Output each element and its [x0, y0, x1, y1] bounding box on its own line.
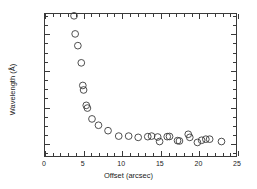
x-tick-label: 0 [42, 160, 46, 168]
y-axis-tick-labels: 5798580058025804 [0, 0, 257, 189]
x-tick-label: 25 [233, 160, 241, 168]
x-tick-label: 15 [156, 160, 164, 168]
x-axis-title: Offset (arcsec) [0, 171, 257, 180]
x-tick-label: 20 [194, 160, 202, 168]
x-tick-label: 10 [117, 160, 125, 168]
x-tick-label: 5 [81, 160, 85, 168]
y-axis-title: Wavelength (Å) [8, 35, 17, 145]
figure-scatter-wavelength-vs-offset: 5798580058025804 0510152025 Offset (arcs… [0, 0, 257, 189]
